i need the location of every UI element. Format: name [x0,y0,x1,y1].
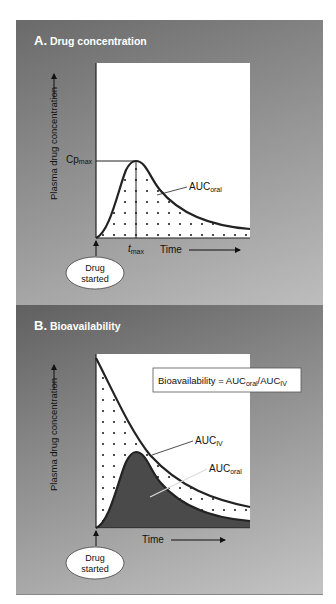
bioavailability-formula: Bioavailability = AUCoral/AUCIV [158,375,287,387]
chart-a: AUCoral Cpmax tmax Time Plasma drug conc… [48,63,250,289]
y-axis-label-a: Plasma drug concentration [48,87,59,200]
chart-b: Bioavailability = AUCoral/AUCIV AUCIV AU… [48,354,301,579]
drug-started-line1-a: Drug [85,263,105,273]
tmax-label: tmax [128,243,145,255]
x-axis-label-b: Time [142,534,164,545]
diagram-canvas: AUCoral Cpmax tmax Time Plasma drug conc… [0,0,336,604]
y-axis-label-b: Plasma drug concentration [48,378,59,491]
drug-started-line1-b: Drug [85,553,105,563]
x-axis-label-a: Time [160,244,182,255]
drug-started-bubble-a [66,257,124,289]
drug-started-line2-a: started [81,274,109,284]
cpmax-label: Cpmax [66,154,93,165]
drug-started-line2-b: started [81,564,109,574]
drug-started-bubble-b [66,547,124,579]
